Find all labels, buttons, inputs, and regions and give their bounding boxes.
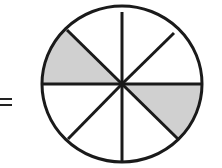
divider-diagonal-upper-right — [122, 33, 174, 84]
shaded-sector-upper-left — [42, 29, 122, 85]
divider-diagonal-lower-left — [68, 84, 122, 139]
shaded-sector-lower-right — [122, 84, 202, 140]
fraction-circle — [0, 0, 222, 168]
center-point — [119, 81, 125, 87]
